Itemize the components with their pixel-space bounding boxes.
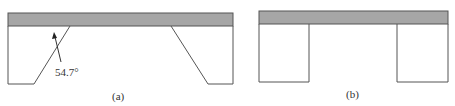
mask-layer-a <box>8 13 233 26</box>
etch-profiles-diagram <box>0 0 455 106</box>
caption-a: (a) <box>112 90 124 102</box>
substrate-left-b <box>259 24 309 82</box>
substrate-right-b <box>397 24 448 82</box>
arrowhead-icon <box>52 32 57 39</box>
substrate-right-a <box>171 26 233 84</box>
caption-b: (b) <box>346 88 359 100</box>
angle-label: 54.7° <box>55 66 79 78</box>
figure-b-vertical-etch <box>259 11 448 82</box>
figure-a-anisotropic-etch <box>8 13 233 84</box>
mask-layer-b <box>259 11 448 24</box>
